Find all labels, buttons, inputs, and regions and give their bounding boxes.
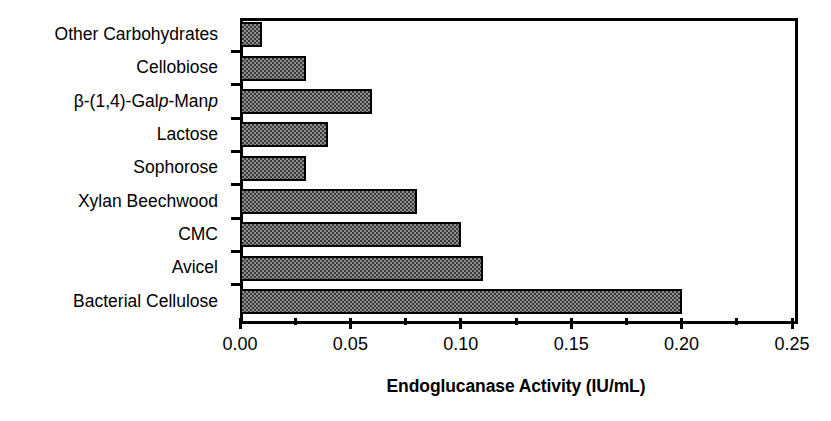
x-axis-title: Endoglucanase Activity (IU/mL) [240,376,792,397]
bar [240,256,483,281]
y-axis-label: Other Carbohydrates [55,18,218,51]
x-axis-tick-major [791,318,794,329]
x-axis-tick-label: 0.15 [531,334,611,355]
x-axis-tick-major [570,318,573,329]
y-axis-tick [231,183,240,186]
y-axis-tick [231,50,240,53]
bar [240,22,262,47]
x-axis-tick-label: 0.05 [310,334,390,355]
y-axis-category-labels: Other CarbohydratesCellobioseβ-(1,4)-Gal… [0,18,228,318]
y-axis-label: Xylan Beechwood [78,185,218,218]
x-axis-tick-label: 0.25 [752,334,831,355]
bar [240,122,328,147]
x-axis-tick-label: 0.00 [200,334,280,355]
y-axis-label: Sophorose [133,151,218,184]
y-axis-tick [231,217,240,220]
y-axis-tick [231,117,240,120]
y-axis-label: Avicel [172,251,218,284]
x-axis-tick-major [239,318,242,329]
plot-area [240,18,792,318]
y-axis-tick [231,250,240,253]
x-axis-tick-minor [294,318,297,325]
x-axis-tick-label: 0.10 [421,334,501,355]
y-axis-tick [231,83,240,86]
y-axis-label: CMC [178,218,218,251]
y-axis-tick [231,150,240,153]
x-axis-tick-minor [735,318,738,325]
y-axis-label: Bacterial Cellulose [73,285,218,318]
x-axis-tick-major [349,318,352,329]
bar-chart: Other CarbohydratesCellobioseβ-(1,4)-Gal… [0,0,831,421]
x-axis-tick-minor [404,318,407,325]
x-axis-tick-major [680,318,683,329]
y-axis-tick [231,283,240,286]
x-axis-tick-minor [515,318,518,325]
x-axis-tick-label: 0.20 [642,334,722,355]
x-axis-tick-major [459,318,462,329]
bar [240,56,306,81]
bar [240,222,461,247]
y-axis-label: Lactose [157,118,218,151]
x-axis-tick-minor [625,318,628,325]
bar [240,156,306,181]
y-axis-label: Cellobiose [136,51,218,84]
y-axis-label: β-(1,4)-Galp-Manp [74,85,218,118]
bar [240,89,372,114]
bar [240,289,682,314]
bar [240,189,417,214]
